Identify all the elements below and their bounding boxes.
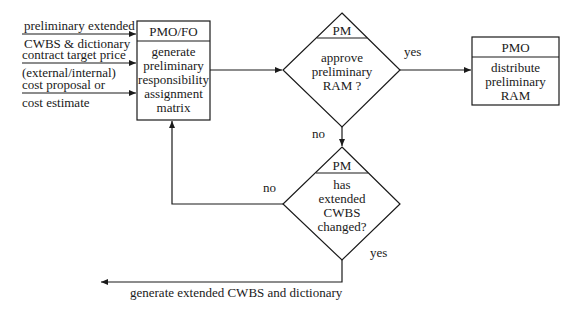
actor-pmo-fo: PMO/FO xyxy=(149,24,197,39)
input-arrow-contract-price: contract target price (external/internal… xyxy=(22,47,136,80)
label-no-changed: no xyxy=(263,180,276,195)
input-label-cost-line1: cost proposal or xyxy=(22,77,106,92)
svg-text:extended: extended xyxy=(319,191,366,206)
decision-approve-ram: PM approve preliminary RAM ? xyxy=(283,13,400,127)
flowchart-canvas: preliminary extended CWBS & dictionary c… xyxy=(0,0,579,314)
svg-text:preliminary: preliminary xyxy=(312,64,373,79)
process-distribute-ram: PMO distribute preliminary RAM xyxy=(472,37,559,105)
input-arrow-cost-proposal: cost proposal or cost estimate xyxy=(22,77,136,110)
svg-text:generate: generate xyxy=(151,44,195,59)
input-label-cost-line2: cost estimate xyxy=(22,95,90,110)
svg-text:matrix: matrix xyxy=(157,100,191,115)
actor-pm: PM xyxy=(333,23,352,38)
process-generate-ram: PMO/FO generate preliminary responsibili… xyxy=(137,21,210,120)
svg-text:RAM: RAM xyxy=(501,88,531,103)
svg-text:preliminary: preliminary xyxy=(485,74,546,89)
svg-text:assignment: assignment xyxy=(144,86,203,101)
output-label: generate extended CWBS and dictionary xyxy=(130,285,343,300)
svg-text:distribute: distribute xyxy=(491,60,540,75)
arrow-yes-to-output xyxy=(101,260,342,282)
svg-text:responsibility: responsibility xyxy=(138,72,209,87)
svg-text:has: has xyxy=(333,177,350,192)
input-label-price-line1: contract target price xyxy=(22,47,126,62)
actor-pm-2: PM xyxy=(333,158,352,173)
svg-text:approve: approve xyxy=(321,50,363,65)
actor-pmo: PMO xyxy=(501,40,529,55)
label-yes-approve: yes xyxy=(404,44,421,59)
input-label-cwbs-line1: preliminary extended xyxy=(24,18,135,33)
svg-text:CWBS: CWBS xyxy=(324,205,361,220)
label-yes-changed: yes xyxy=(370,245,387,260)
svg-text:preliminary: preliminary xyxy=(143,58,204,73)
svg-text:RAM ?: RAM ? xyxy=(323,78,362,93)
label-no-approve: no xyxy=(312,126,325,141)
svg-text:changed?: changed? xyxy=(317,219,366,234)
decision-cwbs-changed: PM has extended CWBS changed? xyxy=(283,147,400,260)
